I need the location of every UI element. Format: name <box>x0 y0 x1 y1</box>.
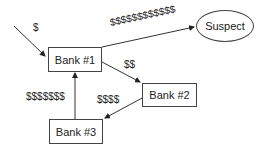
node-bank3: Bank #3 <box>49 119 103 144</box>
node-bank1: Bank #1 <box>48 47 102 72</box>
edge-label-bank3-to-bank1: $$$$$$$ <box>26 91 65 102</box>
node-bank1-label: Bank #1 <box>55 54 95 66</box>
node-bank3-label: Bank #3 <box>56 126 96 138</box>
node-suspect: Suspect <box>196 10 254 42</box>
edge-bank1-to-suspect <box>102 27 194 47</box>
node-bank2: Bank #2 <box>142 83 197 107</box>
node-bank2-label: Bank #2 <box>149 89 189 101</box>
edge-label-in-to-bank1: $ <box>33 22 39 33</box>
edge-in-to-bank1 <box>14 26 45 56</box>
money-flow-diagram: Bank #1 Bank #2 Bank #3 Suspect $ $$$$$$… <box>0 0 263 154</box>
node-suspect-label: Suspect <box>205 20 245 32</box>
edge-label-bank1-to-bank2: $$ <box>124 59 135 70</box>
edge-label-bank2-to-bank3: $$$$ <box>97 94 119 105</box>
